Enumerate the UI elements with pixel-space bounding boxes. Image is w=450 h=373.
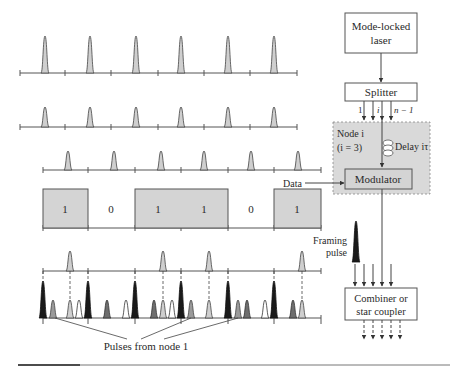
data-input-label: Data bbox=[283, 178, 302, 189]
node-index-label: (i = 3) bbox=[337, 142, 362, 154]
data-bit: 0 bbox=[248, 203, 254, 215]
data-bit: 1 bbox=[201, 203, 207, 215]
data-bits-row: 1 0 1 1 0 1 bbox=[43, 189, 321, 231]
combiner-output-arrows bbox=[364, 320, 400, 339]
modulator-label: Modulator bbox=[355, 173, 402, 185]
delay-label: Delay iτ bbox=[395, 141, 428, 152]
laser-label-line1: Mode-locked bbox=[352, 20, 411, 32]
otdm-diagram: 1 0 1 1 0 1 bbox=[0, 0, 450, 373]
combined-stream-row bbox=[39, 281, 321, 324]
port-label-i: i bbox=[377, 105, 380, 115]
data-bit: 1 bbox=[155, 203, 161, 215]
combiner-label-line1: Combiner or bbox=[354, 293, 408, 304]
port-label-1: 1 bbox=[358, 105, 363, 115]
data-bit: 0 bbox=[108, 203, 114, 215]
pulse-train-row-2 bbox=[20, 107, 297, 130]
pulse-train-row-1 bbox=[20, 36, 297, 76]
combiner-input-arrows bbox=[355, 262, 391, 286]
data-bit-box bbox=[135, 189, 228, 228]
framing-label-line2: pulse bbox=[326, 247, 348, 258]
pulse-train-row-3-delayed bbox=[43, 151, 321, 173]
node-1-leader-lines bbox=[55, 318, 238, 339]
framing-pulse-icon bbox=[352, 221, 360, 262]
node-label: Node i bbox=[337, 128, 364, 139]
mode-locked-laser-block bbox=[345, 13, 417, 53]
pulses-from-node-label: Pulses from node 1 bbox=[104, 340, 189, 352]
modulated-output-row bbox=[43, 251, 321, 274]
framing-label-line1: Framing bbox=[313, 235, 347, 246]
data-bit: 1 bbox=[62, 203, 68, 215]
framing-pulses bbox=[39, 281, 278, 318]
port-label-n-minus-1: n − 1 bbox=[394, 105, 414, 115]
data-bit: 1 bbox=[294, 203, 300, 215]
splitter-label: Splitter bbox=[365, 86, 398, 98]
fiber-delay-coil-icon bbox=[383, 140, 393, 156]
combiner-label-line2: star coupler bbox=[356, 306, 406, 317]
laser-label-line2: laser bbox=[371, 34, 392, 46]
